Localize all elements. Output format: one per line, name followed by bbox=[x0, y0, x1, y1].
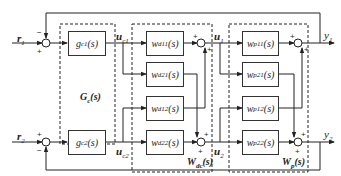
block-subscript: d22 bbox=[158, 139, 169, 147]
block-suffix: (s) bbox=[168, 137, 179, 148]
block-suffix: (s) bbox=[168, 69, 179, 80]
sumd1-plus-bottom: + bbox=[207, 46, 212, 54]
block-name: w bbox=[151, 103, 158, 114]
block-subscript: c2 bbox=[81, 139, 88, 147]
block-suffix: (s) bbox=[168, 103, 179, 114]
sump2-plus-bottom: + bbox=[295, 148, 300, 156]
sumd1-plus-left: + bbox=[193, 33, 198, 41]
sump1-plus-bottom: + bbox=[304, 46, 309, 54]
signal-u1-label: u1 bbox=[214, 31, 224, 45]
output-y2-label: y2 bbox=[324, 129, 332, 143]
wp11-block: wp11(s) bbox=[242, 31, 279, 56]
block-subscript: p21 bbox=[253, 71, 264, 79]
block-subscript: p12 bbox=[253, 105, 264, 113]
block-subscript: d11 bbox=[158, 40, 168, 48]
block-subscript: d21 bbox=[158, 71, 169, 79]
output-y1-label: y1 bbox=[324, 30, 332, 44]
block-suffix: (s) bbox=[88, 137, 99, 148]
block-name: w bbox=[247, 38, 254, 49]
decoupler-group-label: Wdc(s) bbox=[187, 157, 213, 170]
block-suffix: (s) bbox=[264, 69, 275, 80]
sumd2-plus-top: + bbox=[204, 131, 209, 139]
wd21-block: wd21(s) bbox=[146, 62, 184, 87]
wp12-block: wp12(s) bbox=[242, 96, 279, 121]
input-r1-label: r1 bbox=[17, 33, 25, 47]
sum2-minus-sign: − bbox=[37, 147, 42, 155]
block-subscript: d12 bbox=[158, 105, 169, 113]
controller-group-label: Gc(s) bbox=[80, 92, 101, 105]
signal-uc1-label: uc1 bbox=[116, 31, 129, 45]
signal-u2-label: u2 bbox=[214, 146, 224, 160]
sumd2-plus-bottom: + bbox=[198, 148, 203, 156]
block-suffix: (s) bbox=[264, 103, 275, 114]
wd22-block: wd22(s) bbox=[146, 130, 184, 155]
wd12-block: wd12(s) bbox=[146, 96, 184, 121]
block-subscript: p11 bbox=[254, 40, 264, 48]
block-name: w bbox=[151, 137, 158, 148]
block-suffix: (s) bbox=[264, 137, 275, 148]
block-suffix: (s) bbox=[168, 38, 179, 49]
block-suffix: (s) bbox=[88, 38, 99, 49]
block-name: w bbox=[151, 69, 158, 80]
input-r2-label: r2 bbox=[17, 131, 25, 145]
signal-uc2-label: uc2 bbox=[116, 146, 129, 160]
wp21-block: wp21(s) bbox=[242, 62, 279, 87]
block-name: w bbox=[151, 38, 158, 49]
sum1-plus-sign: + bbox=[37, 48, 42, 56]
sump1-plus-left: + bbox=[290, 33, 295, 41]
sum2-plus-sign: + bbox=[37, 131, 42, 139]
block-suffix: (s) bbox=[264, 38, 275, 49]
block-subscript: c1 bbox=[81, 40, 88, 48]
wp22-block: wp22(s) bbox=[242, 130, 279, 155]
block-subscript: p22 bbox=[253, 139, 264, 147]
plant-group-label: Wp(s) bbox=[282, 157, 305, 170]
gc1-block: gc1(s) bbox=[68, 31, 106, 56]
sum1-minus-sign: − bbox=[37, 29, 42, 37]
wd11-block: wd11(s) bbox=[146, 31, 184, 56]
sump2-plus-top: + bbox=[301, 131, 306, 139]
gc2-block: gc2(s) bbox=[68, 130, 106, 155]
